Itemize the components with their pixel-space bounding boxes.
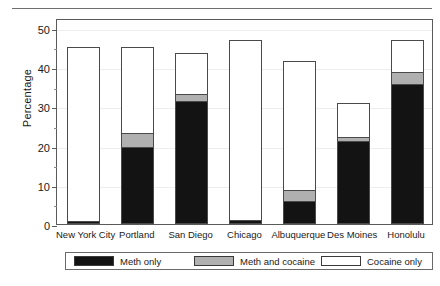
x-tick-label: New York City <box>56 229 110 240</box>
stacked-bar[interactable] <box>337 103 370 224</box>
bar-group[interactable] <box>67 18 100 224</box>
y-tick-minor <box>54 206 57 207</box>
bar-group[interactable] <box>229 18 262 224</box>
plot-area: 01020304050 <box>57 20 432 224</box>
y-tick-major <box>52 30 57 31</box>
bar-segment-meth-only[interactable] <box>338 141 369 223</box>
legend-label: Meth and cocaine <box>240 256 315 267</box>
y-tick-minor <box>54 89 57 90</box>
bar-segment-meth-and-cocaine[interactable] <box>122 133 153 147</box>
legend-label: Meth only <box>120 256 161 267</box>
bar-group[interactable] <box>121 18 154 224</box>
legend-entry[interactable]: Cocaine only <box>321 253 422 269</box>
bar-segment-meth-only[interactable] <box>392 84 423 223</box>
bar-segment-meth-only[interactable] <box>122 147 153 224</box>
bar-group[interactable] <box>283 18 316 224</box>
x-tick-label: San Diego <box>164 229 218 240</box>
figure: Percentage 01020304050 New York CityPort… <box>0 0 440 286</box>
legend-label: Cocaine only <box>367 256 422 267</box>
stacked-bar[interactable] <box>67 47 100 224</box>
y-tick-minor <box>54 49 57 50</box>
bar-segment-meth-and-cocaine[interactable] <box>284 190 315 202</box>
y-tick-major <box>52 108 57 109</box>
bar-group[interactable] <box>391 18 424 224</box>
plot-frame: 01020304050 <box>56 19 433 225</box>
x-tick-label: Portland <box>110 229 164 240</box>
y-tick-label: 30 <box>38 102 50 114</box>
bar-group[interactable] <box>337 18 370 224</box>
y-tick-major <box>52 69 57 70</box>
y-tick-major <box>52 148 57 149</box>
top-divider-rule <box>12 8 432 9</box>
y-tick-label: 40 <box>38 63 50 75</box>
legend-swatch <box>194 256 234 266</box>
stacked-bar[interactable] <box>121 47 154 224</box>
bar-segment-meth-only[interactable] <box>68 221 99 223</box>
bar-segment-meth-and-cocaine[interactable] <box>338 137 369 141</box>
bar-segment-meth-and-cocaine[interactable] <box>176 94 207 102</box>
x-tick-label: Honolulu <box>379 229 433 240</box>
legend-swatch <box>74 256 114 266</box>
y-tick-major <box>52 187 57 188</box>
chart-legend: Meth onlyMeth and cocaineCocaine only <box>65 252 433 270</box>
y-tick-label: 20 <box>38 142 50 154</box>
stacked-bar[interactable] <box>175 53 208 224</box>
y-tick-minor <box>54 167 57 168</box>
y-axis-title: Percentage <box>21 38 33 158</box>
y-tick-label: 50 <box>38 24 50 36</box>
bar-segment-meth-only[interactable] <box>230 220 261 223</box>
legend-entry[interactable]: Meth and cocaine <box>194 253 315 269</box>
x-tick-label: Chicago <box>218 229 272 240</box>
stacked-bar[interactable] <box>391 40 424 224</box>
x-tick-label: Albuquerque <box>271 229 325 240</box>
bar-segment-meth-and-cocaine[interactable] <box>392 72 423 84</box>
y-tick-label: 0 <box>44 220 50 232</box>
bar-group[interactable] <box>175 18 208 224</box>
bar-segment-meth-only[interactable] <box>176 101 207 223</box>
stacked-bar[interactable] <box>283 61 316 224</box>
x-tick-label: Des Moines <box>325 229 379 240</box>
y-tick-minor <box>54 128 57 129</box>
y-tick-label: 10 <box>38 181 50 193</box>
bar-segment-meth-only[interactable] <box>284 201 315 223</box>
legend-swatch <box>321 256 361 266</box>
y-tick-major <box>52 226 57 227</box>
legend-entry[interactable]: Meth only <box>74 253 161 269</box>
stacked-bar[interactable] <box>229 40 262 224</box>
